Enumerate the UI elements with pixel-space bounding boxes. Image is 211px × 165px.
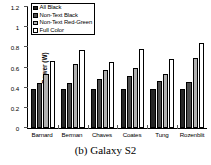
- y-axis-tick-label: 0.2: [11, 104, 19, 111]
- bar: [127, 76, 132, 128]
- x-axis-tick-label: Barnard: [27, 131, 57, 138]
- legend-item-label: Full Color: [40, 28, 64, 34]
- y-axis-tick-label: 1.2: [11, 4, 19, 11]
- bar: [50, 61, 55, 128]
- x-axis-tick-label: Berman: [57, 131, 87, 138]
- y-axis-tick-label: 0.4: [11, 84, 19, 91]
- bar: [79, 50, 84, 128]
- legend-item[interactable]: All Black: [33, 5, 92, 11]
- bar: [91, 89, 96, 128]
- y-axis-tick-label: 0: [16, 125, 19, 132]
- y-axis-tick-label: 1: [16, 24, 19, 31]
- bar: [73, 64, 78, 128]
- bar: [163, 74, 168, 128]
- bar: [37, 83, 42, 128]
- x-axis-tick-label: Chaves: [87, 131, 117, 138]
- figure-galaxy-s2: Power (W) 00.20.40.60.811.2 BarnardBerma…: [0, 0, 211, 165]
- bar: [133, 68, 138, 129]
- x-axis-tick-label: Tung: [147, 131, 177, 138]
- bar: [193, 58, 198, 128]
- bar: [169, 59, 174, 128]
- bar: [180, 89, 185, 128]
- bar-group: [177, 7, 207, 128]
- y-axis-tick-label: 0.6: [11, 64, 19, 71]
- bar: [121, 89, 126, 128]
- legend-item-label: All Black: [40, 5, 62, 11]
- bar-group: [117, 7, 147, 128]
- bar-group: [147, 7, 177, 128]
- bar: [139, 49, 144, 128]
- legend-swatch-icon: [33, 6, 38, 11]
- bar: [67, 83, 72, 128]
- figure-caption: (b) Galaxy S2: [0, 144, 211, 156]
- legend-item-label: Non-Text Red-Green: [40, 20, 93, 26]
- y-axis-tick-label: 0.8: [11, 44, 19, 51]
- bar: [31, 89, 36, 128]
- bar: [186, 82, 191, 128]
- bar: [157, 81, 162, 128]
- bar: [61, 89, 66, 128]
- legend-swatch-icon: [33, 21, 38, 26]
- bar: [109, 62, 114, 128]
- x-axis-tick-label: Coates: [117, 131, 147, 138]
- x-axis-tick-label: Rozenblit: [177, 131, 207, 138]
- legend-item[interactable]: Non-Text Black: [33, 13, 92, 19]
- legend-swatch-icon: [33, 28, 38, 33]
- legend-swatch-icon: [33, 13, 38, 18]
- bar: [150, 89, 155, 128]
- bar: [97, 79, 102, 128]
- bar: [199, 43, 204, 128]
- x-axis-labels: BarnardBermanChavesCoatesTungRozenblit: [27, 131, 207, 138]
- legend-item-label: Non-Text Black: [40, 13, 78, 19]
- legend-item[interactable]: Full Color: [33, 28, 92, 34]
- bar: [43, 74, 48, 128]
- bar: [103, 70, 108, 128]
- legend: All BlackNon-Text BlackNon-Text Red-Gree…: [31, 3, 95, 35]
- legend-item[interactable]: Non-Text Red-Green: [33, 20, 92, 26]
